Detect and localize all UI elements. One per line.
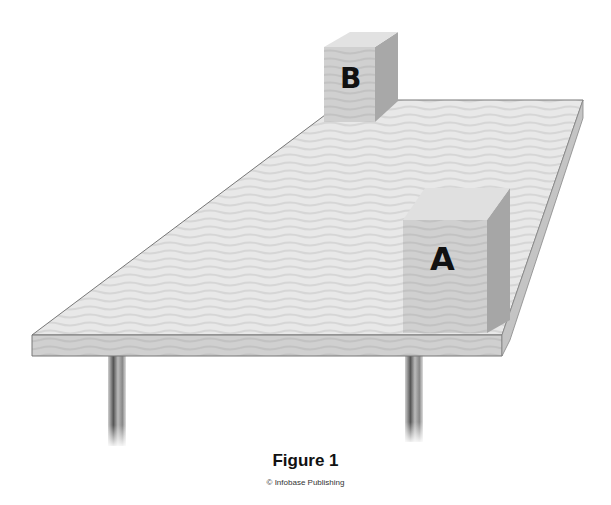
table-front-edge <box>32 335 502 356</box>
box-a <box>403 188 510 333</box>
table-leg-right <box>403 356 425 444</box>
figure-caption: Figure 1 <box>0 451 611 471</box>
table-leg-left <box>106 356 128 448</box>
box-a-label: A <box>430 240 455 278</box>
table-diagram <box>0 0 611 505</box>
copyright-credit: © Infobase Publishing <box>0 478 611 487</box>
box-b-label: B <box>340 62 361 95</box>
